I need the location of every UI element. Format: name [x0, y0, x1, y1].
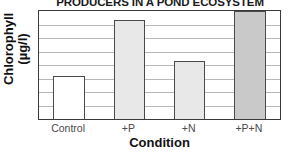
bar-plus-n[interactable] [174, 61, 205, 119]
y-axis-title-line-1: Chlorophyll [2, 13, 16, 85]
x-tick-label: +N [159, 122, 219, 134]
x-axis-title: Condition [38, 135, 281, 150]
bars-layer [39, 11, 280, 119]
chart-screenshot: PRODUCERS IN A POND ECOSYSTEM Chlorophyl… [0, 0, 292, 152]
x-tick-label: +P+N [219, 122, 279, 134]
x-tick-label: +P [98, 122, 158, 134]
plot-area [38, 10, 281, 120]
x-axis-tick-labels: Control+P+N+P+N [38, 122, 281, 136]
bar-plus-pplus-n[interactable] [234, 11, 265, 119]
bar-plus-p[interactable] [114, 20, 145, 119]
y-axis-title: Chlorophyll (µg/l) [0, 0, 33, 103]
bar-control[interactable] [53, 76, 84, 119]
x-tick-label: Control [38, 122, 98, 134]
chart-title: PRODUCERS IN A POND ECOSYSTEM [38, 0, 282, 8]
y-axis-title-line-2: (µg/l) [16, 33, 30, 64]
